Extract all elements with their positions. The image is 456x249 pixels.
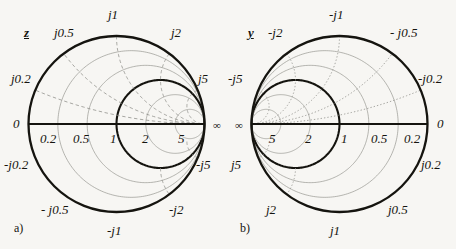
- panel-b-reactance-label-0: -j1: [329, 8, 343, 21]
- panel-b-reactance-label-9: j1: [330, 224, 340, 237]
- panel-b-reactance-label-4: -j0.2: [418, 72, 442, 85]
- panel-b-caption: b): [240, 222, 250, 234]
- panel-a-reactance-label-5: -j0.2: [4, 158, 28, 171]
- panel-a-reactance-label-4: j5: [198, 72, 208, 85]
- panel-a-reactance-label-0: j1: [108, 8, 118, 21]
- panel-b-real-axis-label-0: ∞: [235, 120, 243, 131]
- panel-a-reactance-label-7: - j0.5: [41, 203, 68, 216]
- panel-b-reactance-label-6: j0.2: [421, 158, 441, 171]
- reactance-arc--2: [287, 168, 295, 194]
- panel-a-real-axis-label-2: 0.5: [73, 132, 89, 145]
- panel-b-reactance-label-7: j2: [266, 203, 276, 216]
- panel-a-real-axis-label-0: 0: [13, 117, 20, 130]
- panel-a-reactance-label-8: -j2: [169, 203, 183, 216]
- panel-b-real-axis-label-3: 1: [341, 132, 348, 145]
- panel-b-symbol: y: [248, 26, 254, 39]
- panel-a-reactance-label-9: -j1: [107, 224, 121, 237]
- panel-b-real-axis-label-5: 0.2: [404, 132, 420, 145]
- panel-a-reactance-label-1: j0.5: [54, 26, 74, 39]
- smith-chart-figure: z a) y b) 00.20.5125∞j1j0.5j2j0.2j5-j0.2…: [0, 0, 456, 249]
- panel-a-reactance-label-6: -j5: [196, 158, 210, 171]
- panel-b-real-axis-label-4: 0.5: [371, 132, 387, 145]
- panel-b-reactance-label-8: j0.5: [388, 203, 408, 216]
- panel-a-reactance-label-3: j0.2: [11, 72, 31, 85]
- panel-a-reactance-label-2: j2: [171, 26, 181, 39]
- smith-panel-a: [29, 36, 205, 212]
- panel-a-symbol: z: [24, 26, 29, 39]
- reactance-arc--2: [161, 168, 169, 194]
- panel-a-real-axis-label-4: 2: [142, 132, 149, 145]
- panel-b-real-axis-label-1: 5: [269, 132, 276, 145]
- smith-panel-b: [252, 36, 428, 212]
- panel-b-reactance-label-2: - j0.5: [390, 26, 417, 39]
- panel-b-reactance-label-3: -j5: [228, 72, 242, 85]
- panel-b-reactance-label-1: -j2: [268, 26, 282, 39]
- panel-a-real-axis-label-6: ∞: [213, 120, 221, 131]
- panel-a-real-axis-label-1: 0.2: [40, 132, 56, 145]
- panel-a-real-axis-label-3: 1: [110, 132, 117, 145]
- panel-a-real-axis-label-5: 5: [178, 132, 185, 145]
- panel-b-real-axis-label-2: 2: [305, 132, 312, 145]
- panel-a-caption: a): [14, 222, 23, 234]
- panel-b-real-axis-label-6: 0: [437, 117, 444, 130]
- panel-b-reactance-label-5: j5: [231, 158, 241, 171]
